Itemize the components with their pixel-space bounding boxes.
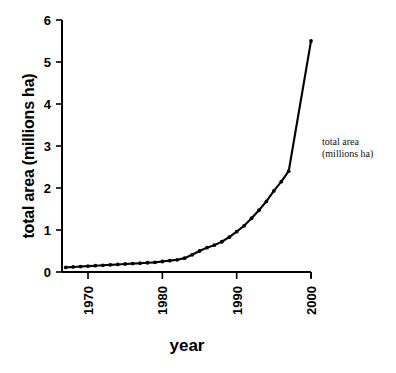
data-point <box>94 264 98 268</box>
data-point <box>220 240 224 244</box>
data-point <box>183 256 187 260</box>
y-tick-label-6: 6 <box>44 13 51 28</box>
plot-canvas: 0123456 1970198019902000 <box>0 0 396 373</box>
data-point <box>250 216 254 220</box>
data-point <box>175 258 179 262</box>
series-annotation-line1: total area <box>322 136 396 148</box>
data-point <box>279 180 283 184</box>
data-series-group <box>64 39 313 269</box>
series-annotation-line2: (millions ha) <box>322 148 396 160</box>
data-point <box>242 224 246 228</box>
y-tick-label-3: 3 <box>44 139 51 154</box>
data-point <box>257 208 261 212</box>
data-point <box>138 261 142 265</box>
data-series-line <box>66 41 311 267</box>
x-tick-label-1980: 1980 <box>155 286 170 315</box>
axes-group <box>62 20 311 278</box>
data-point <box>287 169 291 173</box>
data-point <box>227 235 231 239</box>
data-point <box>153 260 157 264</box>
data-point <box>160 260 164 264</box>
data-point <box>168 259 172 263</box>
data-point <box>146 261 150 265</box>
data-point <box>71 265 75 269</box>
x-tick-group: 1970198019902000 <box>81 272 319 315</box>
series-annotation: total area (millions ha) <box>322 136 396 160</box>
chart-figure: total area (millions ha) 0123456 1970198… <box>0 0 396 373</box>
data-point <box>235 230 239 234</box>
data-point <box>205 246 209 250</box>
data-point <box>64 265 68 269</box>
data-point <box>108 263 112 267</box>
data-point <box>265 200 269 204</box>
data-point <box>123 262 127 266</box>
y-tick-label-4: 4 <box>44 97 52 112</box>
data-point <box>198 249 202 253</box>
data-point <box>79 265 83 269</box>
data-point <box>212 243 216 247</box>
data-point <box>101 263 105 267</box>
x-tick-label-2000: 2000 <box>304 286 319 315</box>
y-tick-label-2: 2 <box>44 181 51 196</box>
y-tick-label-0: 0 <box>44 265 51 280</box>
data-point <box>190 253 194 257</box>
x-tick-label-1990: 1990 <box>230 286 245 315</box>
data-point <box>309 39 313 43</box>
data-point <box>86 264 90 268</box>
y-tick-label-1: 1 <box>44 223 51 238</box>
data-point <box>272 189 276 193</box>
data-point <box>116 263 120 267</box>
x-axis-title: year <box>62 336 312 356</box>
data-point <box>131 262 135 266</box>
data-series-markers <box>64 39 313 269</box>
y-tick-label-5: 5 <box>44 55 51 70</box>
y-tick-group: 0123456 <box>44 13 62 280</box>
x-tick-label-1970: 1970 <box>81 286 96 315</box>
